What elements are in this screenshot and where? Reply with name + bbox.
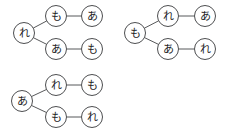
graph-node[interactable]: も <box>82 39 103 60</box>
graph-node[interactable]: も <box>46 6 67 27</box>
diagram-canvas: れもああももれああれあれももれ <box>0 0 235 133</box>
graph-node[interactable]: れ <box>158 6 179 27</box>
graph-top-left-nodes: れもああも <box>14 6 103 60</box>
graph-node[interactable]: も <box>46 107 67 128</box>
node-label: あ <box>51 43 62 56</box>
graph-edge <box>32 89 47 96</box>
graph-node[interactable]: あ <box>195 6 216 27</box>
graph-node[interactable]: あ <box>158 39 179 60</box>
graph-node[interactable]: れ <box>46 75 67 96</box>
node-label: あ <box>87 10 98 23</box>
graph-node[interactable]: あ <box>12 91 33 112</box>
graph-edge <box>33 21 46 28</box>
graph-diagram-group: れもああももれああれあれももれ <box>0 0 235 133</box>
edges-layer <box>32 16 195 117</box>
node-label: も <box>51 111 62 124</box>
node-label: も <box>130 27 141 40</box>
node-label: れ <box>51 79 62 92</box>
graph-top-right-nodes: もれああれ <box>125 6 216 60</box>
node-label: も <box>87 43 98 56</box>
node-label: あ <box>163 43 174 56</box>
node-label: れ <box>163 10 174 23</box>
graph-bottom-left-nodes: あれももれ <box>12 75 103 128</box>
graph-node[interactable]: も <box>125 23 146 44</box>
node-label: も <box>87 79 98 92</box>
node-label: あ <box>17 95 28 108</box>
node-label: れ <box>200 43 211 56</box>
node-label: れ <box>19 27 30 40</box>
graph-node[interactable]: も <box>82 75 103 96</box>
node-label: も <box>51 10 62 23</box>
graph-node[interactable]: れ <box>14 23 35 44</box>
graph-edge <box>33 38 46 45</box>
graph-edge <box>144 21 158 28</box>
node-label: れ <box>87 111 98 124</box>
node-label: あ <box>200 10 211 23</box>
graph-edge <box>144 38 158 45</box>
graph-node[interactable]: れ <box>195 39 216 60</box>
graph-node[interactable]: あ <box>46 39 67 60</box>
graph-node[interactable]: れ <box>82 107 103 128</box>
graph-node[interactable]: あ <box>82 6 103 27</box>
graph-edge <box>32 105 47 112</box>
